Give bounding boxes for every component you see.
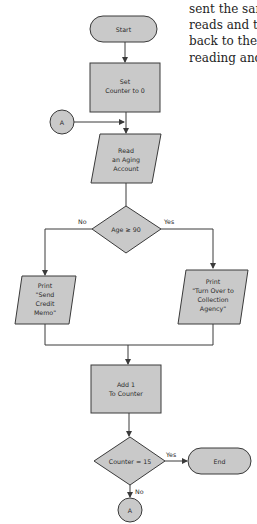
print-collection-io: Print "Turn Over to Collection Agency"	[178, 270, 248, 324]
print-collection-line3: Collection	[197, 296, 228, 303]
end-label: End	[214, 458, 226, 465]
connector-a-out: A	[118, 498, 142, 522]
flowchart: Start Set Counter to 0 A Read an Aging A…	[0, 0, 257, 524]
age-decision: Age ≥ 90 No Yes	[78, 206, 174, 253]
age-yes-label: Yes	[163, 218, 174, 225]
connector-a-in-label: A	[60, 119, 65, 126]
print-credit-memo-io: Print "Send Credit Memo"	[15, 276, 76, 324]
add-counter-line1: Add 1	[117, 381, 135, 388]
add-counter-process: Add 1 To Counter	[91, 365, 161, 413]
print-collection-line4: Agency"	[200, 305, 226, 313]
print-memo-line3: Credit	[36, 300, 55, 307]
start-terminal: Start	[90, 16, 157, 42]
end-terminal: End	[188, 448, 251, 474]
set-counter-line2: Counter to 0	[105, 87, 145, 94]
read-line2: an Aging	[112, 156, 140, 164]
counter-yes-label: Yes	[165, 451, 176, 458]
read-line3: Account	[113, 165, 139, 172]
counter-no-label: No	[135, 488, 144, 495]
counter-decision-label: Counter = 15	[109, 458, 151, 465]
print-collection-line2: "Turn Over to	[192, 287, 234, 294]
counter-decision: Counter = 15 Yes No	[94, 437, 176, 495]
start-label: Start	[116, 26, 132, 33]
connector-a-in: A	[50, 110, 74, 134]
add-counter-line2: To Counter	[108, 390, 143, 397]
print-memo-line1: Print	[38, 282, 53, 289]
age-no-label: No	[78, 218, 87, 225]
set-counter-process: Set Counter to 0	[90, 63, 160, 112]
connector-a-out-label: A	[128, 507, 133, 514]
print-collection-line1: Print	[206, 278, 221, 285]
set-counter-line1: Set	[120, 78, 131, 85]
read-account-io: Read an Aging Account	[91, 134, 161, 183]
print-memo-line2: "Send	[36, 291, 55, 298]
read-line1: Read	[118, 147, 134, 154]
age-decision-label: Age ≥ 90	[111, 226, 140, 234]
print-memo-line4: Memo"	[34, 309, 56, 316]
